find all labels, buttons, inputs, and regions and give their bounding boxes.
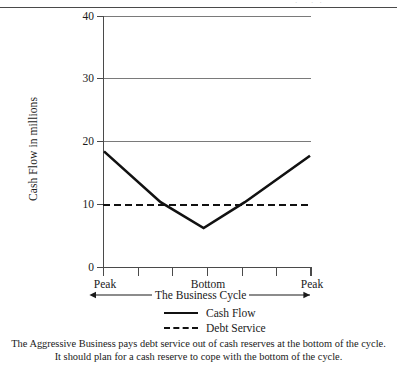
legend-swatch-dashed-icon xyxy=(164,327,198,329)
legend-item-debt-service: Debt Service xyxy=(0,321,397,336)
caption-line-1: The Aggressive Business pays debt servic… xyxy=(0,337,397,350)
y-tick-label-0: 0 xyxy=(68,262,94,274)
gridlines xyxy=(103,17,311,142)
legend-swatch-solid-icon xyxy=(164,312,198,314)
y-axis-label: Cash Flow in millions xyxy=(27,69,39,229)
business-cycle-line-chart xyxy=(0,8,397,293)
business-cycle-label: The Business Cycle xyxy=(152,289,249,301)
y-tick-label-40: 40 xyxy=(68,11,94,23)
x-tick-marks xyxy=(104,267,312,276)
chart-legend: Cash Flow Debt Service xyxy=(0,306,397,336)
y-tick-label-30: 30 xyxy=(68,73,94,85)
figure-caption: The Aggressive Business pays debt servic… xyxy=(0,337,397,363)
legend-label-debt-service: Debt Service xyxy=(206,321,266,335)
series-cash-flow-line xyxy=(104,151,310,228)
figure-page: · ·· xyxy=(0,0,397,366)
legend-label-cash-flow: Cash Flow xyxy=(206,306,256,320)
page-header-ghost-text: · ·· xyxy=(295,0,395,5)
y-tick-label-10: 10 xyxy=(68,199,94,211)
y-tick-label-20: 20 xyxy=(68,136,94,148)
y-tick-marks xyxy=(97,17,103,268)
caption-line-2: It should plan for a cash reserve to cop… xyxy=(0,350,397,363)
legend-item-cash-flow: Cash Flow xyxy=(0,306,397,321)
chart-plot-area: Cash Flow in millions 40 30 20 10 0 Peak… xyxy=(0,8,397,293)
